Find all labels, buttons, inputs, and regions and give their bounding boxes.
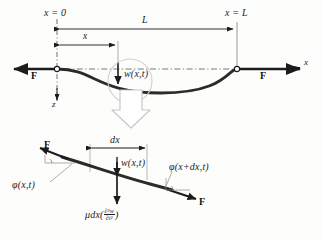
- label-force-left-upper: F: [31, 71, 37, 81]
- label-x-origin: x = 0: [44, 8, 66, 18]
- inertia-numerator: ∂²w: [104, 208, 115, 215]
- label-axis-z: z: [52, 100, 56, 109]
- label-force-left-lower: F: [44, 140, 50, 150]
- label-x-end: x = L: [225, 8, 248, 18]
- inertia-suffix: ): [115, 209, 119, 220]
- label-angle-right: φ(x+dx,t): [169, 162, 209, 172]
- label-x-distance: x: [83, 32, 87, 42]
- zoom-callout-arrow: [112, 90, 150, 128]
- label-inertia-force: μdx(∂²w∂t²): [85, 208, 119, 222]
- element-force-arrow-right: [166, 189, 196, 199]
- leader-line-phi-right: [166, 172, 172, 186]
- inertia-fraction: ∂²w∂t²: [104, 208, 115, 222]
- label-deflection-lower: w(x,t): [121, 158, 145, 168]
- label-force-right-lower: F: [199, 197, 205, 207]
- label-deflection-upper: w(x,t): [124, 69, 148, 79]
- label-length-L: L: [142, 15, 148, 25]
- node-left: [54, 66, 59, 71]
- hollow-down-arrow: [112, 90, 150, 128]
- figure-canvas: [0, 0, 322, 240]
- angle-arc-left: [50, 159, 52, 163]
- leader-line-phi-left: [50, 164, 72, 182]
- label-force-right-upper: F: [260, 71, 266, 81]
- label-element-width-dx: dx: [110, 135, 120, 145]
- inertia-denominator: ∂t²: [104, 215, 115, 221]
- physics-figure: x = 0 x = L L x w(x,t) F F x z dx w(x,t)…: [0, 0, 322, 240]
- lower-diagram-graphics: [40, 144, 196, 204]
- node-right: [234, 66, 239, 71]
- label-angle-left: φ(x,t): [12, 180, 35, 190]
- upper-diagram-graphics: [14, 19, 300, 103]
- inertia-prefix: μdx(: [85, 209, 104, 220]
- label-axis-x: x: [304, 58, 308, 67]
